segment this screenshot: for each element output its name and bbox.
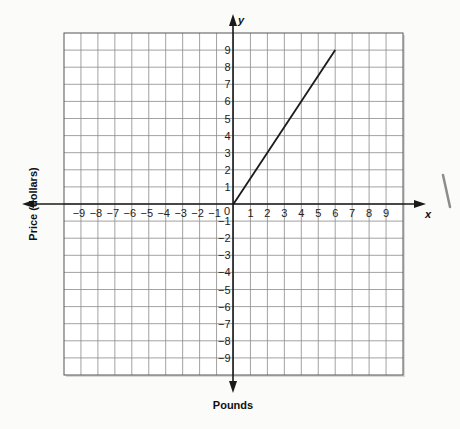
y-tick-label: 3: [224, 147, 230, 159]
x-tick-label: −4: [157, 207, 170, 219]
x-axis-letter: x: [424, 208, 432, 220]
y-tick-label: 7: [224, 78, 230, 90]
origin-label: 0: [224, 205, 230, 217]
x-tick-label: 3: [281, 207, 287, 219]
y-tick-label: 1: [224, 181, 230, 193]
y-tick-label: −6: [218, 301, 231, 313]
x-tick-label: 9: [383, 207, 389, 219]
x-tick-label: −6: [124, 207, 137, 219]
x-tick-label: 2: [264, 207, 270, 219]
y-axis-down-arrow-icon: [229, 381, 237, 393]
y-axis-letter: y: [237, 14, 245, 26]
x-tick-label: −5: [140, 207, 153, 219]
x-tick-label: 8: [366, 207, 372, 219]
y-tick-label: −9: [218, 352, 231, 364]
y-axis-up-arrow-icon: [229, 14, 237, 26]
x-tick-label: −9: [73, 207, 86, 219]
y-axis-title: Price (dollars): [27, 167, 39, 241]
y-tick-label: 6: [224, 95, 230, 107]
x-axis-right-arrow-icon: [414, 200, 426, 208]
x-tick-label: −8: [90, 207, 103, 219]
x-tick-label: 5: [315, 207, 321, 219]
y-tick-label: 5: [224, 113, 230, 125]
x-tick-label: 7: [349, 207, 355, 219]
x-tick-label: −3: [174, 207, 187, 219]
y-tick-label: −5: [218, 284, 231, 296]
x-tick-label: −2: [191, 207, 204, 219]
y-tick-label: −2: [218, 232, 231, 244]
x-tick-label: 1: [247, 207, 253, 219]
y-tick-label: 9: [224, 44, 230, 56]
y-tick-label: 4: [224, 130, 230, 142]
x-tick-label: 4: [298, 207, 304, 219]
y-tick-label: 2: [224, 164, 230, 176]
x-axis-title: Pounds: [213, 399, 253, 411]
y-tick-label: −7: [218, 318, 231, 330]
coordinate-plane-chart: −9−8−7−6−5−4−3−2−1123456789987654321−1−2…: [0, 0, 460, 429]
x-tick-label: −7: [107, 207, 120, 219]
y-tick-label: −3: [218, 249, 231, 261]
y-tick-label: −4: [218, 266, 231, 278]
pencil-mark: [443, 175, 450, 207]
y-tick-label: 8: [224, 61, 230, 73]
y-tick-label: −8: [218, 335, 231, 347]
x-tick-label: 6: [332, 207, 338, 219]
